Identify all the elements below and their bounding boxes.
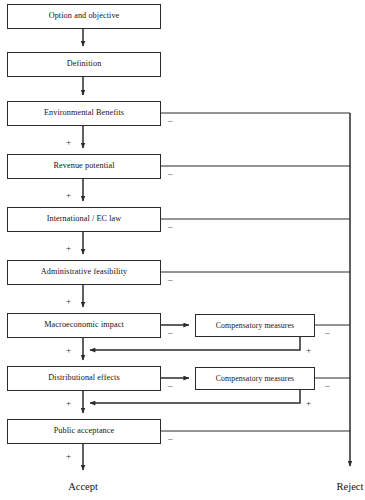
minus-sign-revenue-potential: – [168, 169, 173, 178]
minus-sign-macroeconomic-impact: – [168, 328, 173, 337]
minus-sign-distributional-effects: – [168, 381, 173, 390]
node-compensatory-measures-macroeconomic[interactable]: Compensatory measures [195, 314, 315, 337]
node-label: Compensatory measures [216, 375, 295, 383]
compensatory-inbound-arrows [161, 325, 189, 378]
node-public-acceptance[interactable]: Public acceptance [7, 419, 161, 444]
plus-sign-international-ec-law: + [66, 244, 71, 253]
feedback-compensatory-distributional [90, 390, 300, 403]
plus-sign-revenue-potential: + [66, 191, 71, 200]
terminal-reject: Reject [337, 482, 364, 493]
node-administrative-feasibility[interactable]: Administrative feasibility [7, 260, 161, 285]
node-compensatory-measures-distributional[interactable]: Compensatory measures [195, 367, 315, 390]
node-international-ec-law[interactable]: International / EC law [7, 207, 161, 232]
minus-sign-public-acceptance: – [168, 434, 173, 443]
minus-sign-compensatory-measures-macroeconomic: – [325, 328, 330, 337]
node-label: Distributional effects [48, 374, 119, 382]
node-label: Environmental Benefits [44, 109, 124, 117]
node-definition[interactable]: Definition [7, 52, 161, 77]
plus-sign-macroeconomic-impact: + [66, 346, 71, 355]
node-environmental-benefits[interactable]: Environmental Benefits [7, 101, 161, 126]
feedback-compensatory-macroeconomic [90, 337, 300, 350]
minus-sign-international-ec-law: – [168, 222, 173, 231]
node-label: Administrative feasibility [41, 268, 128, 276]
plus-sign-compensatory-measures-distributional: + [306, 399, 311, 408]
plus-sign-administrative-feasibility: + [66, 297, 71, 306]
node-label: Public acceptance [54, 427, 115, 435]
node-label: Revenue potential [53, 162, 114, 170]
plus-sign-compensatory-measures-macroeconomic: + [306, 346, 311, 355]
minus-sign-administrative-feasibility: – [168, 275, 173, 284]
node-label: International / EC law [47, 215, 122, 223]
node-option-and-objective[interactable]: Option and objective [7, 4, 161, 29]
node-revenue-potential[interactable]: Revenue potential [7, 154, 161, 179]
node-label: Compensatory measures [216, 322, 295, 330]
node-label: Option and objective [49, 12, 120, 20]
plus-sign-public-acceptance: + [66, 452, 71, 461]
node-macroeconomic-impact[interactable]: Macroeconomic impact [7, 313, 161, 338]
terminal-accept: Accept [68, 482, 98, 493]
plus-sign-environmental-benefits: + [66, 138, 71, 147]
node-distributional-effects[interactable]: Distributional effects [7, 366, 161, 391]
node-label: Definition [67, 60, 102, 68]
node-label: Macroeconomic impact [44, 321, 124, 329]
flowchart-canvas: Option and objectiveDefinitionEnvironmen… [0, 0, 365, 500]
plus-sign-distributional-effects: + [66, 399, 71, 408]
minus-sign-environmental-benefits: – [168, 116, 173, 125]
minus-sign-compensatory-measures-distributional: – [325, 381, 330, 390]
